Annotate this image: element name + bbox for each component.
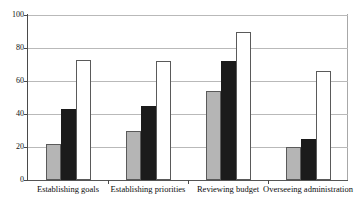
bar [316, 71, 331, 180]
y-tick-label: 0 [2, 176, 24, 184]
y-tick-label: 60 [2, 77, 24, 85]
y-tick-label: 80 [2, 44, 24, 52]
bar-group [28, 15, 108, 180]
bar [236, 32, 251, 181]
bar [61, 109, 76, 180]
bar-chart: Board Performance 020406080100 Establish… [0, 0, 357, 224]
plot-area [28, 15, 348, 180]
y-tick-mark [24, 48, 28, 49]
bar [126, 131, 141, 181]
y-tick-mark [24, 15, 28, 16]
y-tick-mark [24, 114, 28, 115]
bar-group [268, 15, 348, 180]
bar-group [188, 15, 268, 180]
bar [156, 61, 171, 180]
y-tick-mark [24, 81, 28, 82]
bar [221, 61, 236, 180]
y-tick-label: 100 [2, 11, 24, 19]
bar [301, 139, 316, 180]
chart-title: Board Performance [0, 0, 357, 3]
bar-group [108, 15, 188, 180]
bar [46, 144, 61, 180]
bar [141, 106, 156, 180]
y-tick-label: 40 [2, 110, 24, 118]
bar [76, 60, 91, 180]
bar [286, 147, 301, 180]
bar [206, 91, 221, 180]
y-tick-mark [24, 180, 28, 181]
y-tick-mark [24, 147, 28, 148]
category-tick [188, 180, 189, 184]
category-label: Overseeing administration [260, 184, 356, 194]
category-tick [268, 180, 269, 184]
y-tick-label: 20 [2, 143, 24, 151]
category-tick [108, 180, 109, 184]
category-axis-labels: Establishing goalsEstablishing prioritie… [28, 184, 348, 224]
